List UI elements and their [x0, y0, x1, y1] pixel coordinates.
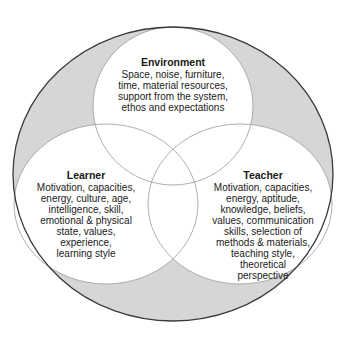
learner-title: Learner — [67, 169, 106, 181]
teacher-line: skills, selection of — [224, 226, 302, 237]
teacher-line: Motivation, capacities, — [214, 182, 312, 193]
learner-line: emotional & physical — [40, 215, 132, 226]
teacher-line: methods & materials, — [216, 237, 310, 248]
environment-line: ethos and expectations — [122, 102, 225, 113]
learner-line: Motivation, capacities, — [37, 182, 135, 193]
learner-line: experience, — [60, 237, 112, 248]
environment-line: support from the system, — [118, 91, 228, 102]
learner-line: intelligence, skill, — [48, 204, 123, 215]
teacher-line: teaching style, — [231, 248, 295, 259]
teacher-line: values, communication — [212, 215, 314, 226]
environment-line: Space, noise, furniture, — [122, 69, 225, 80]
environment-title: Environment — [141, 56, 206, 68]
teacher-line: theoretical — [240, 259, 286, 270]
teacher-line: perspective — [237, 270, 289, 281]
environment-line: time, material resources, — [118, 80, 227, 91]
teacher-line: knowledge, beliefs, — [220, 204, 305, 215]
venn-diagram: Environment Space, noise, furniture, tim… — [0, 0, 351, 338]
learner-line: learning style — [57, 248, 116, 259]
learner-line: energy, culture, age, — [41, 193, 131, 204]
learner-line: state, values, — [57, 226, 116, 237]
teacher-title: Teacher — [243, 169, 283, 181]
teacher-line: energy, aptitude, — [226, 193, 300, 204]
